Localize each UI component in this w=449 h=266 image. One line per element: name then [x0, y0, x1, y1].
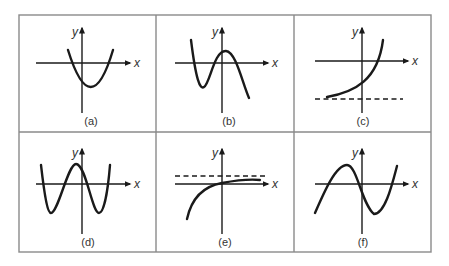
- panel-f: xy(f): [315, 146, 419, 248]
- panel-caption: (a): [84, 115, 97, 127]
- x-axis-label: x: [411, 54, 419, 68]
- y-axis-label: y: [71, 25, 79, 39]
- x-axis-label: x: [271, 56, 279, 70]
- panel-d: xy(d): [36, 146, 141, 248]
- function-curve: [327, 40, 383, 97]
- function-curve: [187, 180, 260, 219]
- panels: xy(a)xy(b)xy(c)xy(d)xy(e)xy(f): [36, 25, 419, 248]
- y-axis-label: y: [71, 146, 79, 160]
- x-axis-label: x: [133, 177, 141, 191]
- panel-c: xy(c): [315, 25, 419, 127]
- x-axis-label: x: [411, 177, 419, 191]
- panel-caption: (b): [222, 115, 235, 127]
- y-axis-label: y: [351, 146, 359, 160]
- panel-caption: (f): [358, 236, 368, 248]
- panel-e: xy(e): [175, 146, 279, 248]
- function-graphs-figure: xy(a)xy(b)xy(c)xy(d)xy(e)xy(f): [0, 0, 449, 266]
- y-axis-label: y: [211, 146, 219, 160]
- panel-caption: (d): [81, 236, 94, 248]
- panel-b: xy(b): [175, 25, 279, 127]
- x-axis-label: x: [133, 56, 141, 70]
- panel-a: xy(a): [36, 25, 141, 127]
- panel-caption: (c): [357, 115, 370, 127]
- y-axis-label: y: [211, 25, 219, 39]
- x-axis-label: x: [271, 177, 279, 191]
- function-curve: [41, 164, 110, 213]
- y-axis-label: y: [351, 25, 359, 39]
- function-curve: [315, 165, 397, 214]
- panel-caption: (e): [218, 236, 231, 248]
- function-curve: [191, 40, 249, 98]
- function-curve: [68, 50, 113, 87]
